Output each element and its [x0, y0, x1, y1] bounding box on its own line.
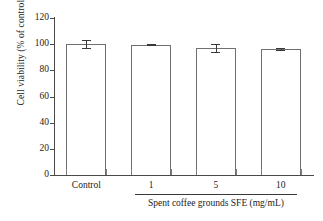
y-axis-tick: [50, 44, 54, 45]
error-bar-cap: [82, 48, 91, 49]
x-axis-category-label: 1: [149, 181, 154, 191]
error-bar-cap: [276, 50, 285, 51]
x-axis-tick: [106, 169, 107, 175]
y-axis-tick: [50, 149, 54, 150]
bar: [131, 45, 171, 175]
x-axis-tick: [171, 169, 172, 175]
y-axis-tick-label: 20: [40, 144, 50, 154]
y-axis-tick-label: 120: [35, 13, 49, 23]
bar: [66, 44, 106, 175]
y-axis-tick: [50, 18, 54, 19]
bar: [261, 49, 301, 175]
y-axis-tick: [50, 97, 54, 98]
x-axis-tick: [301, 169, 302, 175]
x-axis-line: [54, 175, 314, 176]
x-axis-tick: [236, 169, 237, 175]
bar-chart-figure: Cell viability (% of control) 0204060801…: [0, 0, 323, 221]
error-bar-cap: [147, 45, 156, 46]
y-axis-tick-label: 100: [35, 39, 49, 49]
error-bar-cap: [82, 40, 91, 41]
x-axis-category-label: 5: [214, 181, 219, 191]
error-bar-cap: [211, 44, 220, 45]
error-bar: [86, 40, 87, 48]
y-axis-tick-label: 60: [40, 92, 50, 102]
y-axis-tick-label: 80: [40, 66, 50, 76]
x-axis-tick: [196, 169, 197, 175]
y-axis-tick: [50, 123, 54, 124]
error-bar: [216, 44, 217, 52]
x-axis-title: Spent coffee grounds SFE (mg/mL): [148, 199, 284, 209]
x-axis-category-label: 10: [276, 181, 286, 191]
y-axis-tick-label: 40: [40, 118, 50, 128]
plot-area: 020406080100120: [54, 18, 313, 175]
x-axis-tick: [66, 169, 67, 175]
y-axis-tick: [50, 175, 54, 176]
bar: [196, 48, 236, 175]
x-axis-category-label: Control: [72, 181, 101, 191]
error-bar-cap: [276, 48, 285, 49]
y-axis-title: Cell viability (% of control): [16, 0, 30, 136]
x-axis-tick: [131, 169, 132, 175]
category-group-bracket: [135, 194, 297, 195]
x-axis-tick: [261, 169, 262, 175]
y-axis-tick-label: 0: [44, 170, 49, 180]
y-axis-tick: [50, 70, 54, 71]
error-bar-cap: [211, 52, 220, 53]
